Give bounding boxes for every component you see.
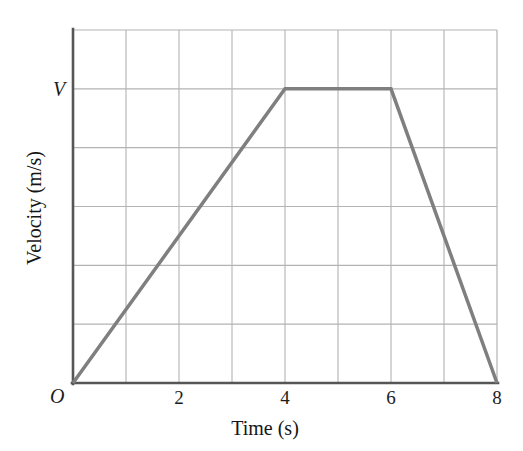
y-tick-label-v: V [53,79,65,99]
x-axis-title: Time (s) [185,418,345,438]
origin-label: O [50,386,64,406]
x-tick-label-2: 2 [159,388,199,407]
y-axis-title: Velocity (m/s) [24,108,44,308]
x-tick-label-4: 4 [265,388,305,407]
x-tick-label-8: 8 [477,388,517,407]
chart-canvas [0,0,523,451]
x-tick-label-6: 6 [371,388,411,407]
velocity-time-graph-figure: V O 2 4 6 8 Time (s) Velocity (m/s) [0,0,523,451]
